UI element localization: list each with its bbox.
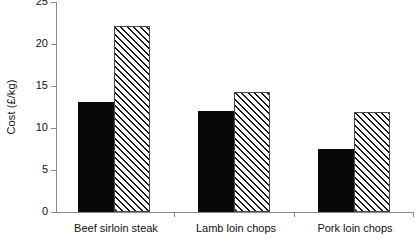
x-category-label-lamb: Lamb loin chops — [176, 222, 296, 234]
y-tick-label-5: 5 — [22, 163, 48, 175]
bar-group-beef-sirloin-steak — [78, 0, 150, 212]
y-tick-label-10: 10 — [22, 121, 48, 133]
y-axis-title-label: Cost (£/kg) — [5, 79, 17, 134]
bar-chart: Cost (£/kg) 0 5 10 15 20 25 — [0, 0, 420, 243]
y-tick-label-20: 20 — [22, 37, 48, 49]
bar-beef-solid — [78, 102, 114, 212]
bar-lamb-solid — [198, 111, 234, 212]
x-category-label-pork: Pork loin chops — [296, 222, 414, 234]
x-tick-2 — [294, 212, 295, 217]
bar-pork-solid — [318, 149, 354, 212]
bar-pork-hatch — [354, 112, 390, 212]
y-tick-25 — [51, 2, 56, 3]
bar-lamb-hatch — [234, 92, 270, 212]
y-tick-label-0: 0 — [22, 205, 48, 217]
y-tick-5 — [51, 170, 56, 171]
y-tick-label-25: 25 — [22, 0, 48, 7]
bar-group-pork-loin-chops — [318, 0, 390, 212]
y-tick-label-15: 15 — [22, 79, 48, 91]
x-category-label-beef: Beef sirloin steak — [56, 222, 176, 234]
bar-group-lamb-loin-chops — [198, 0, 270, 212]
y-tick-10 — [51, 128, 56, 129]
y-axis-line — [56, 2, 57, 213]
x-axis-line — [56, 212, 414, 213]
plot-area: 0 5 10 15 20 25 Beef sirloin — [56, 0, 416, 213]
y-tick-20 — [51, 44, 56, 45]
x-tick-1 — [174, 212, 175, 217]
y-tick-15 — [51, 86, 56, 87]
y-axis-title: Cost (£/kg) — [2, 0, 20, 213]
x-tick-3 — [413, 212, 414, 217]
bar-beef-hatch — [114, 26, 150, 212]
y-tick-0 — [51, 212, 56, 213]
